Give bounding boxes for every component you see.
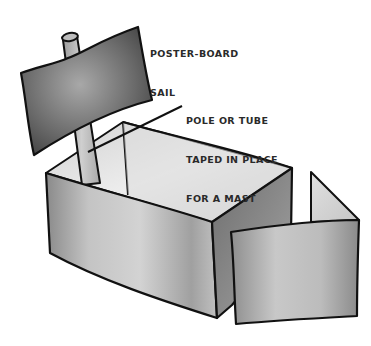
mast-label-line-1: POLE OR TUBE <box>186 114 278 127</box>
sail-label-line-1: POSTER-BOARD <box>150 47 239 60</box>
mast-label-line-2: TAPED IN PLACE <box>186 153 278 166</box>
mast-label: POLE OR TUBE TAPED IN PLACE FOR A MAST <box>186 88 278 218</box>
mast-label-line-3: FOR A MAST <box>186 192 278 205</box>
